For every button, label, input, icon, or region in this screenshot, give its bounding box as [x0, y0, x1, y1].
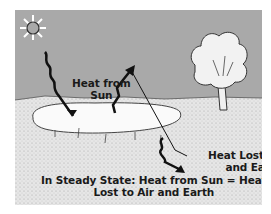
steady-state-line1: In Steady State: Heat from Sun = Heat [41, 174, 262, 186]
steady-state-caption: In Steady State: Heat from Sun = Heat Lo… [41, 174, 262, 198]
heat-lost-line1: Heat Lost to Air [208, 149, 262, 161]
heat-from-sun-line2: Sun [72, 89, 131, 101]
heat-lost-line2: and Earth [208, 161, 262, 173]
heat-from-sun-label: Heat from Sun [72, 77, 131, 101]
steady-state-line2: Lost to Air and Earth [41, 186, 262, 198]
heat-balance-diagram: Heat from Sun Heat Lost to Air and Earth… [15, 10, 262, 205]
heat-from-sun-line1: Heat from [72, 77, 131, 89]
heat-lost-label: Heat Lost to Air and Earth [208, 149, 262, 173]
